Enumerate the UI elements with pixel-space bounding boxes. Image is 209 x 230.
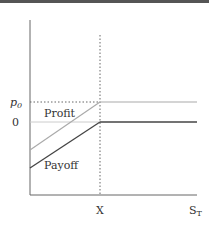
payoff-label: Payoff bbox=[44, 159, 79, 172]
p0-label: p0 bbox=[10, 96, 22, 110]
zero-label: 0 bbox=[12, 116, 19, 129]
x-axis-label: ST bbox=[189, 204, 203, 218]
x-tick-label: X bbox=[96, 204, 104, 217]
payoff-chart: p0 0 Profit Payoff X ST bbox=[0, 0, 209, 230]
profit-label: Profit bbox=[44, 107, 76, 120]
